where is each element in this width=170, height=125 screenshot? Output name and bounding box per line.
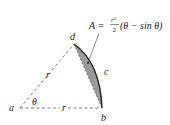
radius-label-left: r — [46, 69, 50, 80]
formula-rhs: (θ − sin θ) — [120, 20, 163, 32]
formula-numerator: r² — [111, 16, 117, 24]
point-label-b: b — [101, 112, 106, 123]
point-label-d: d — [70, 31, 76, 42]
formula-denominator: 2 — [113, 26, 117, 34]
point-label-a: a — [9, 102, 14, 113]
circular-segment-diagram: d a b c r r θ A = r² 2 (θ − sin θ) — [0, 0, 170, 125]
formula-leader-line — [88, 33, 99, 63]
leader-dot — [87, 62, 89, 64]
angle-label-theta: θ — [32, 96, 37, 107]
radius-label-bottom: r — [62, 102, 66, 113]
arc-label-c: c — [104, 66, 109, 77]
formula-lhs: A = — [88, 20, 104, 31]
shaded-segment — [74, 44, 102, 108]
